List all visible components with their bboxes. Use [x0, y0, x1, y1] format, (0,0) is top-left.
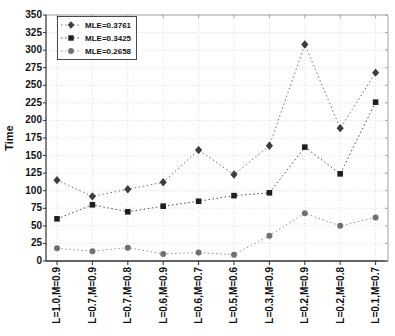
y-tick-label: 125 [0, 168, 42, 178]
data-point-circle [160, 251, 166, 257]
data-point-circle [196, 250, 202, 256]
data-point-circle [231, 252, 237, 258]
y-tick-label: 100 [0, 186, 42, 196]
data-point-diamond [53, 176, 60, 184]
y-tick-label: 50 [0, 221, 42, 231]
legend-marker-square-icon [61, 33, 81, 43]
x-tick-label: L=0.7,M=0.9 [87, 267, 97, 324]
data-point-diamond [195, 146, 202, 154]
data-point-diamond [266, 142, 273, 150]
y-tick-label: 75 [0, 203, 42, 213]
x-tick-label: L=0.1,M=0.7 [371, 267, 381, 324]
x-tick-label: L=0.2,M=0.9 [300, 267, 310, 324]
y-tick-label: 250 [0, 80, 42, 90]
legend-entry: MLE=0.2658 [61, 45, 131, 57]
chart-figure: Time 02550751001251501752002252502753003… [0, 0, 395, 336]
x-tick-label: L=0.7,M=0.8 [123, 267, 133, 324]
data-point-square [302, 144, 308, 150]
data-point-circle [266, 233, 272, 239]
x-tick-label: L=0.6,M=0.9 [158, 267, 168, 324]
x-tick-label: L=0.6,M=0.7 [194, 267, 204, 324]
y-tick-label: 0 [0, 256, 42, 266]
data-point-circle [54, 245, 60, 251]
data-point-square [196, 198, 202, 204]
legend-marker-diamond-icon [61, 20, 81, 30]
x-tick-label: L=0.3,M=0.9 [264, 267, 274, 324]
y-tick-label: 25 [0, 238, 42, 248]
x-tick-label: L=0.5,M=0.6 [229, 267, 239, 324]
legend: MLE=0.3761MLE=0.3425MLE=0.2658 [57, 16, 137, 60]
data-point-square [54, 216, 60, 222]
x-tick-label: L=1.0,M=0.9 [52, 267, 62, 324]
data-point-square [125, 209, 131, 215]
y-tick-label: 225 [0, 98, 42, 108]
y-tick-label: 200 [0, 115, 42, 125]
y-tick-label: 275 [0, 63, 42, 73]
legend-entry: MLE=0.3425 [61, 32, 131, 44]
data-point-diamond [89, 192, 96, 200]
data-point-diamond [301, 40, 308, 48]
x-tick-label: L=0.2,M=0.8 [335, 267, 345, 324]
legend-marker-circle-icon [61, 46, 81, 56]
data-point-square [337, 171, 343, 177]
data-point-square [231, 193, 237, 199]
y-tick-label: 300 [0, 45, 42, 55]
data-point-square [267, 190, 273, 196]
series-line-2 [57, 213, 376, 254]
data-point-diamond [230, 170, 237, 178]
data-point-square [90, 202, 96, 208]
data-point-diamond [337, 124, 344, 132]
data-point-circle [373, 214, 379, 220]
y-tick-label: 175 [0, 133, 42, 143]
data-point-circle [337, 223, 343, 229]
legend-label: MLE=0.2658 [85, 47, 131, 56]
data-point-square [373, 99, 379, 105]
data-point-diamond [124, 185, 131, 193]
data-point-circle [302, 210, 308, 216]
y-tick-label: 325 [0, 28, 42, 38]
y-tick-label: 350 [0, 10, 42, 20]
legend-entry: MLE=0.3761 [61, 19, 131, 31]
legend-label: MLE=0.3425 [85, 34, 131, 43]
data-point-square [160, 203, 166, 209]
data-point-circle [89, 248, 95, 254]
legend-label: MLE=0.3761 [85, 21, 131, 30]
series-line-1 [57, 102, 376, 219]
data-point-circle [125, 245, 131, 251]
data-point-diamond [372, 68, 379, 76]
y-tick-label: 150 [0, 151, 42, 161]
